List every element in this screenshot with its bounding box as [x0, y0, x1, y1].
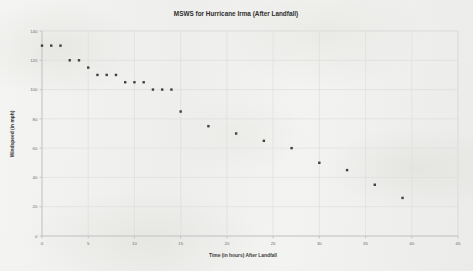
- data-point: [152, 88, 154, 90]
- x-tick-label: 5: [87, 241, 90, 246]
- x-tick-label: 35: [363, 241, 368, 246]
- x-tick-label: 15: [178, 241, 183, 246]
- data-point: [161, 88, 163, 90]
- y-tick-label: 120: [30, 58, 38, 63]
- data-point: [318, 162, 320, 164]
- y-tick-label: 100: [30, 87, 38, 92]
- data-point: [235, 132, 237, 134]
- data-point: [69, 59, 71, 61]
- y-tick-label: 20: [33, 204, 38, 209]
- y-tick-labels: 020406080100120140: [30, 29, 42, 239]
- data-point: [133, 81, 135, 83]
- data-point: [50, 44, 52, 46]
- data-point: [78, 59, 80, 61]
- x-tick-label: 10: [132, 241, 137, 246]
- data-point: [106, 74, 108, 76]
- y-tick-label: 140: [30, 29, 38, 34]
- data-point: [96, 74, 98, 76]
- chart-title: MSWS for Hurricane Irma (After Landfall): [174, 10, 298, 18]
- y-tick-label: 0: [35, 234, 38, 239]
- data-point: [115, 74, 117, 76]
- x-axis-title: Time (in hours) After Landfall: [209, 253, 278, 258]
- y-tick-label: 80: [33, 117, 38, 122]
- data-point: [41, 44, 43, 46]
- data-point: [124, 81, 126, 83]
- y-axis-title: Windspeed (in mph): [10, 110, 15, 157]
- data-point: [170, 88, 172, 90]
- y-tick-label: 40: [33, 175, 38, 180]
- chart-canvas: MSWS for Hurricane Irma (After Landfall)…: [0, 0, 473, 271]
- scatter-chart: MSWS for Hurricane Irma (After Landfall)…: [0, 0, 473, 271]
- data-point: [179, 110, 181, 112]
- x-tick-label: 40: [409, 241, 414, 246]
- data-point: [290, 147, 292, 149]
- x-tick-label: 0: [41, 241, 44, 246]
- data-point: [374, 184, 376, 186]
- data-point: [207, 125, 209, 127]
- data-point: [263, 140, 265, 142]
- data-point: [59, 44, 61, 46]
- data-point: [401, 197, 403, 199]
- y-tick-label: 60: [33, 146, 38, 151]
- x-tick-label: 20: [224, 241, 229, 246]
- x-tick-label: 25: [271, 241, 276, 246]
- x-tick-label: 30: [317, 241, 322, 246]
- data-point: [346, 169, 348, 171]
- grid-lines: [42, 31, 458, 236]
- data-point: [87, 66, 89, 68]
- x-tick-label: 45: [456, 241, 461, 246]
- data-points: [41, 44, 404, 199]
- data-point: [142, 81, 144, 83]
- axis-lines: [42, 31, 458, 236]
- x-tick-labels: 051015202530354045: [41, 236, 461, 246]
